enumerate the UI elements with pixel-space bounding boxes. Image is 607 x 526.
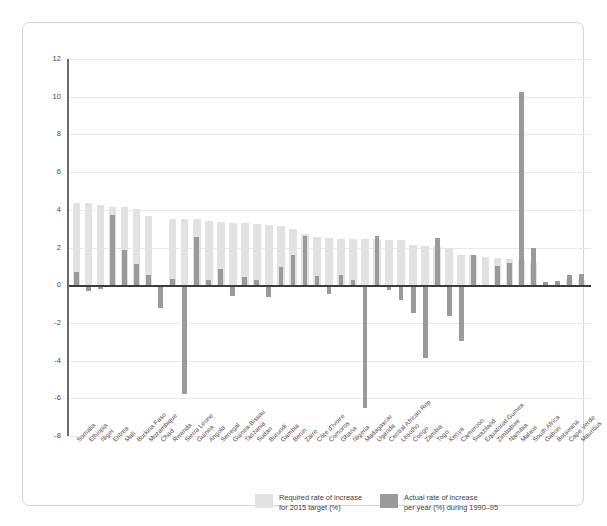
bar-group[interactable] [299, 59, 311, 436]
bar-actual[interactable] [423, 285, 428, 358]
bar-group[interactable] [479, 59, 491, 436]
bar-actual[interactable] [411, 285, 416, 313]
bar-actual[interactable] [303, 236, 308, 285]
bar-group[interactable] [431, 59, 443, 436]
bar-required[interactable] [169, 219, 176, 285]
bar-required[interactable] [421, 246, 428, 286]
bar-group[interactable] [311, 59, 323, 436]
bar-group[interactable] [143, 59, 155, 436]
bar-actual[interactable] [266, 285, 271, 297]
bar-required[interactable] [349, 239, 356, 285]
bar-group[interactable] [467, 59, 479, 436]
bar-group[interactable] [287, 59, 299, 436]
legend-item[interactable]: Required rate of increasefor 2015 target… [255, 493, 362, 512]
bar-required[interactable] [385, 240, 392, 285]
bar-actual[interactable] [495, 266, 500, 285]
bar-required[interactable] [181, 219, 188, 285]
bar-group[interactable] [227, 59, 239, 436]
bar-group[interactable] [191, 59, 203, 436]
bar-group[interactable] [71, 59, 83, 436]
bar-required[interactable] [361, 239, 368, 285]
bar-actual[interactable] [531, 248, 536, 285]
bar-group[interactable] [347, 59, 359, 436]
bar-group[interactable] [335, 59, 347, 436]
bar-actual[interactable] [435, 238, 440, 285]
bar-required[interactable] [482, 257, 489, 285]
bar-required[interactable] [445, 248, 452, 286]
bar-group[interactable] [371, 59, 383, 436]
bar-actual[interactable] [279, 267, 284, 285]
bar-group[interactable] [203, 59, 215, 436]
bar-required[interactable] [253, 224, 260, 285]
bar-group[interactable] [131, 59, 143, 436]
bar-actual[interactable] [363, 285, 368, 408]
bar-group[interactable] [419, 59, 431, 436]
bar-actual[interactable] [230, 285, 235, 296]
bar-required[interactable] [229, 223, 236, 285]
bar-group[interactable] [527, 59, 539, 436]
bar-actual[interactable] [315, 276, 320, 285]
bar-group[interactable] [215, 59, 227, 436]
bar-actual[interactable] [110, 215, 115, 286]
bar-group[interactable] [263, 59, 275, 436]
bar-actual[interactable] [170, 279, 175, 286]
bar-group[interactable] [323, 59, 335, 436]
bar-group[interactable] [503, 59, 515, 436]
bar-group[interactable] [575, 59, 587, 436]
bar-group[interactable] [491, 59, 503, 436]
bar-required[interactable] [325, 238, 332, 285]
bar-group[interactable] [239, 59, 251, 436]
bar-actual[interactable] [182, 285, 187, 393]
bar-group[interactable] [251, 59, 263, 436]
bar-required[interactable] [85, 203, 92, 285]
y-tick-label: 0 [39, 280, 61, 289]
bar-group[interactable] [167, 59, 179, 436]
bar-actual[interactable] [218, 269, 223, 285]
bar-group[interactable] [179, 59, 191, 436]
bar-actual[interactable] [579, 274, 584, 285]
bar-actual[interactable] [567, 275, 572, 285]
bar-actual[interactable] [471, 255, 476, 285]
bar-group[interactable] [107, 59, 119, 436]
bar-actual[interactable] [291, 255, 296, 285]
bar-actual[interactable] [194, 237, 199, 285]
bar-required[interactable] [97, 205, 104, 285]
bar-group[interactable] [407, 59, 419, 436]
bar-actual[interactable] [375, 236, 380, 285]
bar-actual[interactable] [122, 250, 127, 285]
bar-group[interactable] [155, 59, 167, 436]
legend-label-line1: Actual rate of increase [404, 493, 478, 502]
bar-required[interactable] [409, 245, 416, 286]
bar-actual[interactable] [507, 263, 512, 286]
bar-actual[interactable] [339, 275, 344, 285]
bar-actual[interactable] [447, 285, 452, 316]
bar-group[interactable] [359, 59, 371, 436]
bar-required[interactable] [457, 255, 464, 285]
bar-actual[interactable] [242, 277, 247, 285]
bar-required[interactable] [205, 221, 212, 285]
legend-label: Actual rate of increaseper year (%) duri… [404, 493, 498, 512]
bar-group[interactable] [275, 59, 287, 436]
bar-group[interactable] [455, 59, 467, 436]
bar-group[interactable] [551, 59, 563, 436]
y-tick-label: 2 [39, 243, 61, 252]
bar-required[interactable] [397, 240, 404, 285]
bar-actual[interactable] [134, 264, 139, 286]
bar-actual[interactable] [519, 92, 524, 285]
bar-group[interactable] [539, 59, 551, 436]
bar-group[interactable] [95, 59, 107, 436]
bar-actual[interactable] [146, 275, 151, 285]
bar-group[interactable] [443, 59, 455, 436]
bar-required[interactable] [265, 225, 272, 285]
bar-actual[interactable] [74, 272, 79, 285]
legend-item[interactable]: Actual rate of increaseper year (%) duri… [380, 493, 498, 512]
bar-actual[interactable] [399, 285, 404, 300]
bar-group[interactable] [383, 59, 395, 436]
bar-actual[interactable] [459, 285, 464, 341]
bar-group[interactable] [83, 59, 95, 436]
bar-group[interactable] [395, 59, 407, 436]
bar-group[interactable] [563, 59, 575, 436]
bar-group[interactable] [515, 59, 527, 436]
bar-actual[interactable] [158, 285, 163, 308]
bar-group[interactable] [119, 59, 131, 436]
